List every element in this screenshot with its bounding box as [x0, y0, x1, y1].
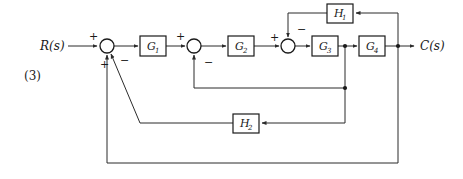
figure-index-label: (3): [24, 69, 41, 83]
block-H1: H 1: [327, 4, 353, 23]
wire-node-g3out-to-h2: [262, 88, 345, 123]
block-G1-subscript: 1: [155, 47, 159, 55]
sum3-sign-top-minus: −: [297, 23, 306, 36]
block-diagram-canvas: G 1 G 2 G 3 G 4 H 1 H 2 +: [0, 0, 463, 179]
summing-junction-sum1: [100, 39, 114, 53]
sum1-sign-input-plus: +: [89, 30, 98, 43]
sum2-sign-input-plus: +: [176, 30, 185, 43]
block-diagram-figure: G 1 G 2 G 3 G 4 H 1 H 2 +: [0, 0, 463, 179]
block-G2-subscript: 2: [242, 47, 248, 55]
sum1-sign-bottom-plus: +: [100, 58, 109, 71]
outer-feedback-path: [107, 46, 398, 163]
sum1-circle: [100, 39, 114, 53]
sum1-sign-diagonal-minus: −: [120, 54, 129, 67]
summing-junction-sum3: [281, 39, 295, 53]
block-H1-subscript: 1: [342, 14, 346, 22]
block-G3-subscript: 3: [327, 47, 332, 55]
block-G4-subscript: 4: [373, 47, 378, 55]
block-G3: G 3: [312, 36, 338, 56]
block-H2: H 2: [233, 114, 259, 133]
block-G2: G 2: [228, 36, 254, 56]
sum2-sign-bottom-minus: −: [204, 56, 213, 69]
wire-node-g4out-to-sum1: [107, 46, 398, 163]
sum3-sign-input-plus: +: [270, 31, 279, 44]
sum3-circle: [281, 39, 295, 53]
block-G4: G 4: [359, 36, 385, 56]
block-H2-subscript: 2: [247, 124, 253, 132]
wire-h1-to-sum3: [288, 13, 327, 37]
input-signal-label: R(s): [39, 39, 65, 53]
output-signal-label: C(s): [420, 39, 445, 53]
node-inner-mid-dot: [343, 86, 347, 90]
sum2-circle: [187, 39, 201, 53]
summing-junction-sum2: [187, 39, 201, 53]
node-g4-out-dot: [396, 44, 400, 48]
node-g3-out-dot: [343, 44, 347, 48]
block-G1: G 1: [140, 36, 166, 56]
